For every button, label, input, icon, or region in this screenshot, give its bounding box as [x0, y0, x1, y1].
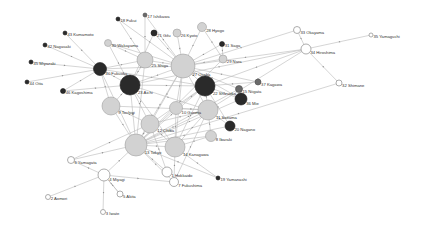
- node-fukuoka: [94, 63, 107, 76]
- node-yamagata: [68, 157, 75, 164]
- node-label: 21 Gifu: [157, 33, 171, 38]
- node-hokkaido: [162, 167, 172, 177]
- node-aichi: [120, 75, 140, 95]
- node-hyogo: [198, 23, 207, 32]
- node-label: 45 Miyazaki: [33, 61, 55, 66]
- node-miyazaki: [29, 60, 33, 64]
- node-label: 17 Ishikawa: [147, 14, 170, 19]
- node-label: 33 Okayama: [300, 30, 324, 35]
- node-label: 18 Fukui: [120, 18, 136, 23]
- node-label: 35 Yamaguchi: [373, 34, 399, 39]
- node-label: 40 Fukuoka: [106, 71, 129, 76]
- node-shiga: [137, 52, 153, 68]
- node-label: 43 Kumamoto: [67, 32, 94, 37]
- arrow-icon: [156, 145, 158, 147]
- node-label: 23 Aichi: [138, 90, 153, 95]
- node-mie: [235, 93, 247, 105]
- node-nagasaki: [43, 43, 47, 47]
- arrow-icon: [95, 87, 97, 89]
- node-iwate: [101, 210, 106, 215]
- node-label: 32 Shimane: [342, 83, 365, 88]
- node-gunma: [170, 102, 183, 115]
- node-wakayama: [105, 40, 112, 47]
- node-label: 1 Hokkaido: [172, 173, 194, 178]
- node-miyagi: [98, 169, 110, 181]
- node-akita: [117, 191, 123, 197]
- node-label: 6 Yamagata: [74, 160, 97, 165]
- node-label: 44 Oita: [29, 81, 43, 86]
- node-label: 7 Fukushima: [178, 183, 203, 188]
- node-chiba: [141, 115, 159, 133]
- node-yamanashi: [216, 176, 220, 180]
- node-nara: [219, 55, 227, 63]
- node-tochigi: [102, 97, 120, 115]
- node-label: 15 Niigata: [242, 89, 262, 94]
- node-nagano: [225, 121, 235, 131]
- node-label: 20 Nagano: [235, 127, 256, 132]
- network-graph: 1 Hokkaido2 Aomori3 Iwate4 Miyagi5 Akita…: [0, 0, 424, 235]
- node-label: 46 Kagoshima: [66, 90, 93, 95]
- arrow-icon: [103, 192, 105, 194]
- node-label: 22 Shizuoka: [213, 91, 237, 96]
- node-label: 34 Hiroshima: [311, 50, 336, 55]
- node-label: 37 Kagawa: [261, 82, 283, 87]
- node-label: 30 Wakayama: [111, 43, 138, 48]
- node-label: 8 Ibaraki: [216, 137, 232, 142]
- node-gifu: [151, 30, 157, 36]
- node-kanagawa: [165, 137, 185, 157]
- arrow-icon: [166, 85, 168, 87]
- node-label: 29 Nara: [227, 59, 243, 64]
- node-label: 19 Yamanashi: [220, 177, 246, 182]
- node-label: 28 Hyogo: [206, 28, 225, 33]
- node-oita: [25, 80, 29, 84]
- node-kagawa: [255, 79, 261, 85]
- node-fukui: [116, 17, 120, 21]
- node-yamaguchi: [369, 33, 373, 37]
- node-label: 25 Shiga: [152, 63, 169, 68]
- node-label: 36 Mie: [246, 101, 259, 106]
- node-label: 10 Gunma: [182, 110, 202, 115]
- node-shimane: [336, 80, 342, 86]
- node-label: 9 Tochigi: [118, 110, 135, 115]
- node-aomori: [46, 195, 51, 200]
- node-label: 3 Iwate: [106, 211, 120, 216]
- node-saga: [220, 42, 225, 47]
- node-fukushima: [170, 178, 179, 187]
- node-okayama: [294, 27, 301, 34]
- node-ibaraki: [206, 131, 217, 142]
- node-label: 27 Osaka: [192, 72, 211, 77]
- node-label: 5 Akita: [123, 194, 136, 199]
- node-hiroshima: [301, 44, 311, 54]
- node-osaka: [171, 54, 195, 78]
- node-label: 31 Saga: [225, 43, 241, 48]
- node-niigata: [236, 86, 243, 93]
- node-label: 26 Kyoto: [181, 33, 198, 38]
- node-ishikawa: [143, 13, 147, 17]
- node-label: 11 Saitama: [216, 115, 238, 120]
- node-label: 4 Miyagi: [109, 177, 125, 182]
- arrow-icon: [232, 83, 234, 85]
- node-kumamoto: [63, 31, 67, 35]
- node-label: 42 Nagasaki: [47, 44, 70, 49]
- arrow-icon: [144, 36, 146, 38]
- arrow-icon: [222, 50, 224, 52]
- node-shizuoka: [195, 76, 215, 96]
- node-kagoshima: [61, 89, 66, 94]
- node-kyoto: [173, 29, 181, 37]
- node-label: 12 Chiba: [157, 128, 174, 133]
- node-tokyo: [125, 134, 147, 156]
- node-label: 13 Tokyo: [145, 150, 162, 155]
- arrow-icon: [174, 165, 176, 167]
- node-label: 14 Kanagawa: [183, 152, 209, 157]
- node-label: 2 Aomori: [51, 196, 68, 201]
